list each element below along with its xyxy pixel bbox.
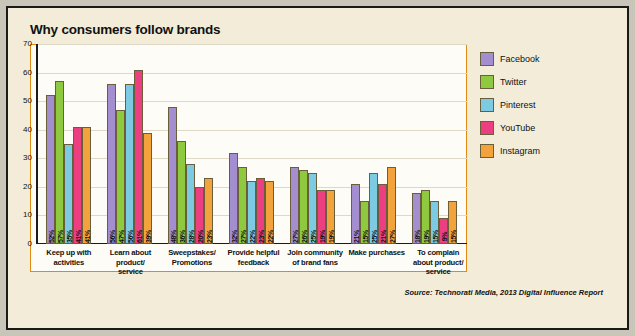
bar-value-label: 22% bbox=[248, 230, 255, 243]
legend-label: Instagram bbox=[500, 146, 540, 156]
legend-item[interactable]: YouTube bbox=[480, 121, 540, 135]
bar-value-label: 23% bbox=[205, 230, 212, 243]
bar: 23% bbox=[204, 178, 213, 244]
bar-group: 27%26%25%19%19% bbox=[290, 44, 335, 244]
bar-value-label: 35% bbox=[65, 230, 72, 243]
bar-value-label: 39% bbox=[144, 230, 151, 243]
bar: 20% bbox=[195, 187, 204, 244]
bar-value-label: 32% bbox=[230, 230, 237, 243]
bar-group: 56%47%56%61%39% bbox=[107, 44, 152, 244]
bar: 28% bbox=[186, 164, 195, 244]
bar-value-label: 21% bbox=[352, 230, 359, 243]
bar-group: 52%57%35%41%41% bbox=[46, 44, 91, 244]
bar: 27% bbox=[387, 167, 396, 244]
bar-group: 32%27%22%23%22% bbox=[229, 44, 274, 244]
bar-value-label: 27% bbox=[239, 230, 246, 243]
bar: 18% bbox=[412, 193, 421, 244]
legend-item[interactable]: Facebook bbox=[480, 52, 540, 66]
bar: 57% bbox=[55, 81, 64, 244]
bar-value-label: 27% bbox=[388, 230, 395, 243]
legend: FacebookTwitterPinterestYouTubeInstagram bbox=[480, 52, 540, 158]
legend-swatch bbox=[480, 144, 494, 158]
bar-value-label: 20% bbox=[196, 230, 203, 243]
bar: 56% bbox=[125, 84, 134, 244]
bar: 23% bbox=[256, 178, 265, 244]
bar-value-label: 28% bbox=[187, 230, 194, 243]
gridline bbox=[36, 244, 467, 245]
legend-label: YouTube bbox=[500, 123, 535, 133]
bar-value-label: 21% bbox=[379, 230, 386, 243]
legend-label: Facebook bbox=[500, 54, 540, 64]
bar: 19% bbox=[421, 190, 430, 244]
bar-value-label: 41% bbox=[83, 230, 90, 243]
bar: 36% bbox=[177, 141, 186, 244]
category-label: Keep up with activities bbox=[40, 248, 98, 300]
legend-swatch bbox=[480, 121, 494, 135]
bar-group: 21%15%25%21%27% bbox=[351, 44, 396, 244]
bar: 35% bbox=[64, 144, 73, 244]
bar: 52% bbox=[46, 95, 55, 244]
bar-value-label: 26% bbox=[300, 230, 307, 243]
bar-value-label: 23% bbox=[257, 230, 264, 243]
bar: 47% bbox=[116, 110, 125, 244]
bar-value-label: 56% bbox=[108, 230, 115, 243]
category-label: Make purchases bbox=[348, 248, 406, 300]
bar: 27% bbox=[290, 167, 299, 244]
legend-item[interactable]: Twitter bbox=[480, 75, 540, 89]
bar: 25% bbox=[308, 173, 317, 244]
bar: 9% bbox=[439, 218, 448, 244]
bar-value-label: 57% bbox=[56, 230, 63, 243]
legend-item[interactable]: Instagram bbox=[480, 144, 540, 158]
y-axis-tick: 50 bbox=[23, 97, 32, 105]
category-label: Provide helpful feedback bbox=[224, 248, 282, 300]
legend-swatch bbox=[480, 75, 494, 89]
bar: 21% bbox=[351, 184, 360, 244]
y-axis-tick: 30 bbox=[23, 154, 32, 162]
bar: 25% bbox=[369, 173, 378, 244]
chart-frame: Why consumers follow brands 010203040506… bbox=[6, 6, 629, 330]
y-axis-tick: 10 bbox=[23, 211, 32, 219]
bar-value-label: 25% bbox=[370, 230, 377, 243]
bar-value-label: 19% bbox=[327, 230, 334, 243]
bar-value-label: 25% bbox=[309, 230, 316, 243]
legend-swatch bbox=[480, 52, 494, 66]
bar-value-label: 61% bbox=[135, 230, 142, 243]
bar: 21% bbox=[378, 184, 387, 244]
y-axis-tick: 20 bbox=[23, 183, 32, 191]
bar-value-label: 48% bbox=[169, 230, 176, 243]
bar: 61% bbox=[134, 70, 143, 244]
bar: 22% bbox=[265, 181, 274, 244]
bar-value-label: 47% bbox=[117, 230, 124, 243]
bar: 15% bbox=[360, 201, 369, 244]
y-axis-tick: 70 bbox=[23, 40, 32, 48]
bar-value-label: 18% bbox=[413, 230, 420, 243]
bar-value-label: 27% bbox=[291, 230, 298, 243]
y-axis-tick: 40 bbox=[23, 126, 32, 134]
source-note: Source: Technorati Media, 2013 Digital I… bbox=[404, 288, 603, 297]
bar-value-label: 36% bbox=[178, 230, 185, 243]
bar-value-label: 9% bbox=[440, 232, 447, 242]
bar-value-label: 15% bbox=[449, 230, 456, 243]
category-label: Learn about product/ service bbox=[101, 248, 159, 300]
bar: 27% bbox=[238, 167, 247, 244]
legend-swatch bbox=[480, 98, 494, 112]
category-label: Join community of brand fans bbox=[286, 248, 344, 300]
y-axis-tick: 60 bbox=[23, 69, 32, 77]
bar: 48% bbox=[168, 107, 177, 244]
bar: 41% bbox=[82, 127, 91, 244]
legend-item[interactable]: Pinterest bbox=[480, 98, 540, 112]
legend-label: Pinterest bbox=[500, 100, 536, 110]
bar: 41% bbox=[73, 127, 82, 244]
bar-value-label: 52% bbox=[47, 230, 54, 243]
bar-group: 48%36%28%20%23% bbox=[168, 44, 213, 244]
bar-groups: 52%57%35%41%41%56%47%56%61%39%48%36%28%2… bbox=[38, 44, 465, 244]
bar: 22% bbox=[247, 181, 256, 244]
bar: 26% bbox=[299, 170, 308, 244]
legend-label: Twitter bbox=[500, 77, 527, 87]
bar: 56% bbox=[107, 84, 116, 244]
bar: 15% bbox=[430, 201, 439, 244]
y-axis-tick: 0 bbox=[28, 240, 32, 248]
category-label: Sweepstakes/ Promotions bbox=[163, 248, 221, 300]
chart-title: Why consumers follow brands bbox=[30, 22, 220, 37]
bar: 15% bbox=[448, 201, 457, 244]
